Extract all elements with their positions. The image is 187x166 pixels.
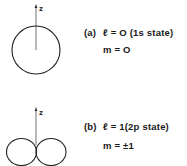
panel-b-l-line: ℓ = 1(2p state) — [103, 121, 169, 132]
z-arrow-a-icon — [35, 4, 38, 8]
panel-b-tag: (b) — [84, 121, 97, 132]
orbital-diagrams — [0, 0, 187, 166]
panel-a-tag: (a) — [84, 27, 96, 38]
z-axis-label-a: z — [39, 4, 43, 13]
p-orbital-right-lobe — [36, 139, 66, 166]
panel-b-m-line: m = ±1 — [103, 140, 134, 151]
p-orbital-left-lobe — [7, 139, 37, 166]
panel-a-drawing — [12, 4, 60, 74]
z-axis-label-b: z — [39, 108, 43, 117]
panel-a-l-line: ℓ = O (1s state) — [103, 27, 173, 38]
z-arrow-b-icon — [35, 107, 38, 111]
panel-a-m-line: m = O — [103, 44, 131, 55]
panel-b-drawing — [7, 107, 67, 166]
